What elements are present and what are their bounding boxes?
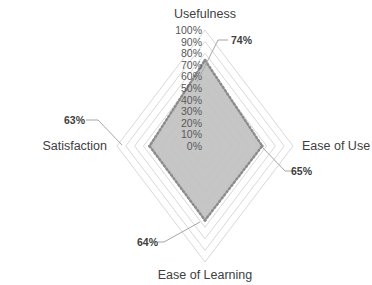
data-label-ease-of-learning: 64% [137,236,159,248]
tick-label-40: 40% [181,94,202,106]
data-label-ease-of-use: 65% [291,165,313,177]
radar-series [148,59,264,222]
series-area-0 [150,60,263,220]
data-label-satisfaction: 63% [64,114,86,126]
tick-label-50: 50% [181,82,202,94]
axis-label-usefulness: Usefulness [174,7,236,21]
axis-label-satisfaction: Satisfaction [42,139,107,153]
data-point-ease-of-use [261,145,264,148]
tick-label-10: 10% [181,128,202,140]
data-point-usefulness [204,59,207,62]
tick-label-70: 70% [181,59,202,71]
tick-label-60: 60% [181,70,202,82]
data-point-ease-of-learning [204,219,207,222]
data-point-satisfaction [148,145,151,148]
tick-label-30: 30% [181,105,202,117]
tick-label-20: 20% [181,117,202,129]
tick-label-100: 100% [175,24,202,36]
tick-label-90: 90% [181,36,202,48]
tick-label-80: 80% [181,47,202,59]
leader-line-ease-of-learning [158,222,200,242]
radar-chart: 0%10%20%30%40%50%60%70%80%90%100% Useful… [0,0,372,285]
axis-label-ease-of-learning: Ease of Learning [158,268,253,282]
tick-label-0: 0% [187,140,202,152]
data-label-usefulness: 74% [231,34,253,46]
axis-label-ease-of-use: Ease of Use [302,139,370,153]
